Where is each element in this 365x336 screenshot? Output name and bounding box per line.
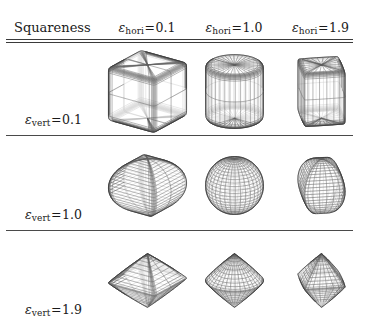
superquadric-cell-r0-c1: [191, 43, 278, 138]
row-header-1: εvert=1.0: [6, 206, 101, 224]
column-header-1: εhori=1.0: [191, 18, 277, 38]
header-rule-upper: [6, 39, 353, 40]
superquadric-cell-r2-c2: [278, 232, 365, 327]
superquadric-cell-r0-c0: [104, 43, 191, 138]
column-header-0: εhori=0.1: [104, 18, 190, 38]
superquadric-cell-r2-c0: [104, 232, 191, 327]
corner-label: Squareness: [6, 18, 101, 38]
superquadric-cell-r0-c2: [278, 43, 365, 138]
superquadric-cell-r1-c1: [191, 137, 278, 232]
row-header-0: εvert=0.1: [6, 111, 101, 129]
row-header-2: εvert=1.9: [6, 301, 101, 319]
superquadric-cell-r1-c2: [278, 137, 365, 232]
superquadric-cell-r2-c1: [191, 232, 278, 327]
superquadric-parameter-table: Squareness εhori=0.1 εhori=1.0 εhori=1.9…: [0, 0, 365, 336]
superquadric-cell-r1-c0: [104, 137, 191, 232]
column-header-2: εhori=1.9: [278, 18, 363, 38]
